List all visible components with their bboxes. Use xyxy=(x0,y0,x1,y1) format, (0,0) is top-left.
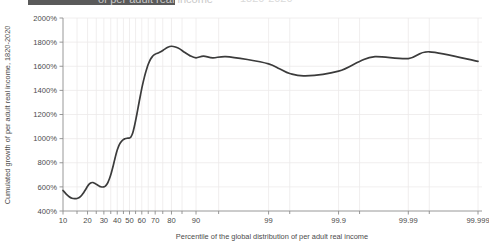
x-tick-label: 10 xyxy=(59,216,67,225)
x-tick-label: 30 xyxy=(100,216,108,225)
data-series-line xyxy=(63,46,478,198)
chart-svg: 400%600%800%1000%1200%1400%1600%1800%200… xyxy=(0,9,489,244)
gridlines xyxy=(63,18,482,211)
y-tick-label: 600% xyxy=(38,183,58,192)
figure-container: Figure 4 Cumulated growth of per adult r… xyxy=(0,0,489,244)
x-tick-label: 99.99 xyxy=(399,216,418,225)
cropped-title-row: Figure 4 Cumulated growth of per adult r… xyxy=(0,0,489,9)
x-tick-label: 80 xyxy=(167,216,175,225)
x-tick-label: 50 xyxy=(125,216,133,225)
x-tick-label: 99 xyxy=(264,216,272,225)
y-tick-label: 1200% xyxy=(33,110,57,119)
figure-subtitle-fragment-2: 1820-2020 xyxy=(240,0,293,4)
y-tick-label: 2000% xyxy=(33,14,57,23)
y-tick-label: 800% xyxy=(38,158,58,167)
x-tick-label: 99.999 xyxy=(466,216,489,225)
x-tick-labels: 1020304050607080909999.999.9999.999 xyxy=(59,216,489,225)
x-tick-label: 99.9 xyxy=(331,216,346,225)
y-axis-label: Cumulated growth of per adult real incom… xyxy=(3,26,12,205)
y-tick-label: 1800% xyxy=(33,38,57,47)
x-tick-label: 90 xyxy=(192,216,200,225)
x-tick-label: 40 xyxy=(113,216,121,225)
y-tick-labels: 400%600%800%1000%1200%1400%1600%1800%200… xyxy=(33,14,57,216)
y-tick-label: 1600% xyxy=(33,62,57,71)
y-tick-label: 1400% xyxy=(33,86,57,95)
x-tick-label: 70 xyxy=(151,216,159,225)
x-tick-label: 20 xyxy=(83,216,91,225)
y-tick-label: 1000% xyxy=(33,134,57,143)
line-chart: 400%600%800%1000%1200%1400%1600%1800%200… xyxy=(0,9,489,244)
x-tick-label: 60 xyxy=(138,216,146,225)
x-axis-label: Percentile of the global distribution of… xyxy=(176,232,368,241)
figure-subtitle-fragment: of per adult real income xyxy=(98,0,213,5)
y-tick-label: 400% xyxy=(38,207,58,216)
